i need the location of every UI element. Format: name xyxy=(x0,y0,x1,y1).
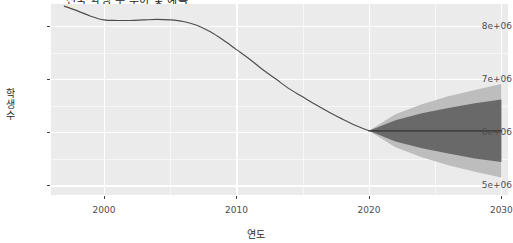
x-tick-mark xyxy=(104,196,105,199)
y-tick-mark xyxy=(47,26,50,27)
x-tick-label: 2010 xyxy=(225,205,248,215)
y-tick-mark xyxy=(47,185,50,186)
y-tick-mark xyxy=(47,132,50,133)
y-axis-title: 학 생 수 xyxy=(2,88,18,121)
x-axis-title: 연도 xyxy=(0,226,512,241)
x-tick-label: 2030 xyxy=(490,205,513,215)
plot-panel xyxy=(51,4,508,195)
x-tick-label: 2000 xyxy=(93,205,116,215)
x-tick-mark xyxy=(236,196,237,199)
y-tick-mark xyxy=(47,79,50,80)
observed-series-line xyxy=(64,6,369,131)
x-tick-label: 2020 xyxy=(357,205,380,215)
y-axis-title-char-3: 수 xyxy=(2,110,18,121)
y-axis-title-char-2: 생 xyxy=(2,99,18,110)
x-tick-mark xyxy=(501,196,502,199)
x-tick-mark xyxy=(369,196,370,199)
series-layer xyxy=(51,4,508,195)
y-axis-title-char-1: 학 xyxy=(2,88,18,99)
